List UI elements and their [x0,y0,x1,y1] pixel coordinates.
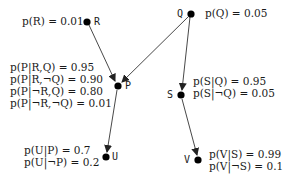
prob-q: p(Q) = 0.05 [205,7,267,19]
edge-s-to-v [182,99,197,155]
node-label-s: S [167,89,173,101]
prob-r: p(R) = 0.01 [22,15,84,27]
prob-p-line-3: p(P|¬R,¬Q) = 0.01 [10,97,112,109]
node-label-u: U [112,151,118,163]
prob-s-line-1: p(S|¬Q) = 0.05 [193,87,275,99]
prob-s-table: p(S|Q) = 0.95 p(S|¬Q) = 0.05 [193,75,275,99]
prob-u-table: p(U|P) = 0.7 p(U|¬P) = 0.2 [24,144,99,168]
node-v [194,156,201,163]
node-label-r: R [94,16,100,28]
node-r [83,18,90,25]
node-q [187,10,194,17]
prob-r-line-0: p(R) = 0.01 [22,15,84,27]
node-u [102,153,109,160]
node-label-q: Q [177,8,183,20]
prob-p-line-2: p(P|¬R,Q) = 0.80 [10,85,112,97]
prob-p-table: p(P|R,Q) = 0.95 p(P|R,¬Q) = 0.90 p(P|¬R,… [10,61,112,109]
node-s [177,91,184,98]
prob-p-line-1: p(P|R,¬Q) = 0.90 [10,73,112,85]
prob-v-table: p(V|S) = 0.99 p(V|¬S) = 0.1 [209,148,283,172]
node-label-v: V [184,154,190,166]
prob-p-line-0: p(P|R,Q) = 0.95 [10,61,112,73]
edge-q-to-s [182,17,190,90]
prob-q-line-0: p(Q) = 0.05 [205,7,267,19]
prob-s-line-0: p(S|Q) = 0.95 [193,75,275,87]
edge-q-to-p [122,17,188,82]
prob-u-line-1: p(U|¬P) = 0.2 [24,156,99,168]
prob-v-line-1: p(V|¬S) = 0.1 [209,160,283,172]
node-label-p: P [125,80,131,92]
prob-u-line-0: p(U|P) = 0.7 [24,144,99,156]
node-p [114,82,121,89]
prob-v-line-0: p(V|S) = 0.99 [209,148,283,160]
